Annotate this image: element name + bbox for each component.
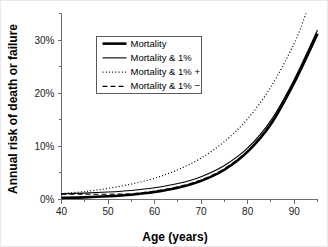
chart-legend: MortalityMortality & 1%Mortality & 1% +M… (97, 37, 202, 94)
x-tick-label: 50 (102, 206, 114, 217)
y-axis-ticks (58, 14, 62, 200)
x-tick-label: 40 (56, 206, 68, 217)
y-axis-title: Annual risk of death or failure (6, 24, 20, 194)
legend-label-1: Mortality (131, 38, 167, 49)
line-chart: 0%10%20%30% 405060708090 MortalityMortal… (1, 1, 328, 247)
x-axis-ticks (62, 200, 318, 204)
chart-figure: 0%10%20%30% 405060708090 MortalityMortal… (0, 0, 328, 247)
y-tick-label: 20% (34, 88, 54, 99)
x-tick-label: 80 (242, 206, 254, 217)
y-axis-tick-labels: 0%10%20%30% (34, 35, 54, 205)
y-tick-label: 10% (34, 141, 54, 152)
legend-label-4: Mortality & 1% − (131, 80, 201, 91)
x-tick-label: 60 (149, 206, 161, 217)
x-tick-label: 70 (196, 206, 208, 217)
legend-label-2: Mortality & 1% (131, 52, 193, 63)
legend-label-3: Mortality & 1% + (131, 66, 201, 77)
x-axis-title: Age (years) (142, 230, 207, 244)
y-tick-label: 0% (40, 194, 55, 205)
y-tick-label: 30% (34, 35, 54, 46)
x-axis-tick-labels: 405060708090 (56, 206, 300, 217)
x-tick-label: 90 (289, 206, 301, 217)
